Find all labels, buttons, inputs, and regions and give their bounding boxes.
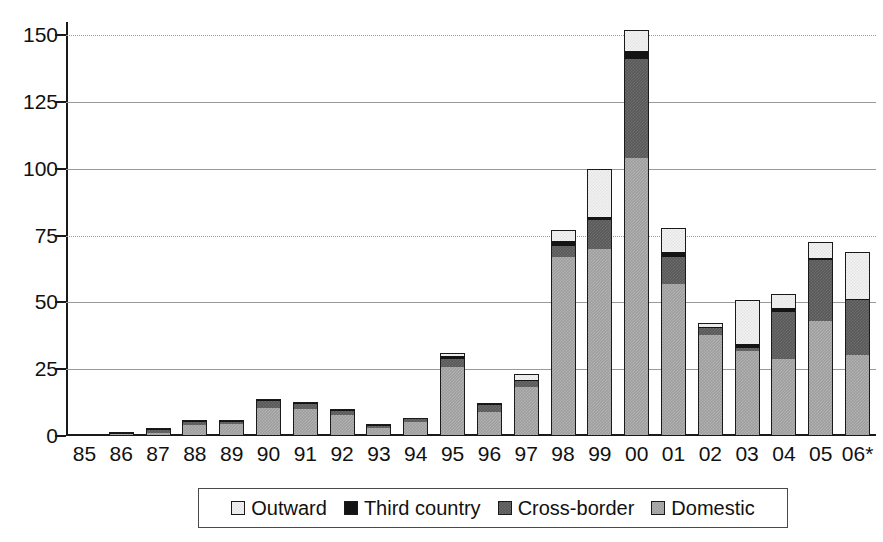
x-tick-label: 06*: [839, 441, 876, 467]
bar-segment-third-country: [109, 432, 134, 434]
bar-segment-third-country: [551, 241, 576, 246]
bar-column[interactable]: [735, 22, 760, 436]
bar-segment-outward: [219, 420, 244, 421]
x-tick-label: 85: [66, 441, 103, 467]
bar-segment-cross-border: [440, 359, 465, 368]
x-tick-label: 04: [766, 441, 803, 467]
x-tick-label: 96: [471, 441, 508, 467]
bar-column[interactable]: [477, 22, 502, 436]
bar-segment-domestic: [219, 424, 244, 436]
bar-segment-cross-border: [477, 405, 502, 412]
bar-segment-domestic: [845, 355, 870, 436]
chart-root: 0255075100125150 85868788899091929394959…: [0, 0, 883, 542]
bar-segment-third-country: [587, 217, 612, 220]
legend-swatch-icon: [498, 501, 512, 515]
legend-swatch-icon: [651, 501, 665, 515]
bar-segment-domestic: [403, 422, 428, 436]
bar-segment-third-country: [845, 299, 870, 300]
bar-segment-cross-border: [366, 426, 391, 428]
bar-segment-domestic: [146, 433, 171, 436]
bar-segment-outward: [808, 242, 833, 258]
legend-item-third-country[interactable]: Third country: [344, 498, 481, 518]
bar-segment-outward: [182, 420, 207, 421]
legend-item-cross-border[interactable]: Cross-border: [498, 498, 635, 518]
x-tick-label: 01: [655, 441, 692, 467]
legend-item-outward[interactable]: Outward: [231, 498, 327, 518]
bar-segment-cross-border: [514, 381, 539, 387]
bar-segment-outward: [403, 418, 428, 419]
bar-segment-third-country: [771, 308, 796, 312]
x-tick-label: 90: [250, 441, 287, 467]
y-axis-tick-125: [55, 101, 66, 103]
bar-column[interactable]: [403, 22, 428, 436]
bar-segment-domestic: [698, 335, 723, 436]
bar-segment-domestic: [109, 434, 134, 436]
x-tick-label: 89: [213, 441, 250, 467]
bar-column[interactable]: [366, 22, 391, 436]
x-axis-tick-labels: 8586878889909192939495969798990001020304…: [66, 441, 876, 475]
bar-column[interactable]: [771, 22, 796, 436]
bar-segment-cross-border: [587, 220, 612, 249]
bar-column[interactable]: [146, 22, 171, 436]
bar-segment-cross-border: [72, 434, 97, 435]
bar-segment-third-country: [440, 356, 465, 358]
bar-segment-cross-border: [403, 419, 428, 422]
y-tick-label: 100: [23, 158, 58, 179]
bar-series-group: [66, 22, 876, 436]
legend-label: Domestic: [671, 498, 754, 518]
bar-segment-domestic: [661, 284, 686, 436]
bar-column[interactable]: [72, 22, 97, 436]
bar-segment-third-country: [293, 403, 318, 404]
bar-segment-outward: [845, 252, 870, 299]
bar-column[interactable]: [109, 22, 134, 436]
plot-area: [66, 22, 876, 436]
bar-segment-outward: [330, 409, 355, 410]
bar-segment-third-country: [698, 327, 723, 328]
bar-column[interactable]: [661, 22, 686, 436]
bar-column[interactable]: [808, 22, 833, 436]
bar-segment-outward: [698, 323, 723, 327]
y-axis-tick-150: [55, 34, 66, 36]
y-tick-label: 150: [23, 24, 58, 45]
legend-swatch-icon: [231, 501, 245, 515]
y-axis-tick-0: [55, 435, 66, 437]
bar-column[interactable]: [587, 22, 612, 436]
bar-segment-third-country: [735, 344, 760, 348]
y-tick-label: 125: [23, 91, 58, 112]
bar-column[interactable]: [551, 22, 576, 436]
bar-column[interactable]: [440, 22, 465, 436]
bar-column[interactable]: [698, 22, 723, 436]
bar-segment-cross-border: [624, 59, 649, 158]
x-tick-label: 88: [176, 441, 213, 467]
bar-column[interactable]: [624, 22, 649, 436]
bar-segment-domestic: [256, 408, 281, 436]
bar-column[interactable]: [293, 22, 318, 436]
legend-label: Outward: [251, 498, 327, 518]
bar-segment-cross-border: [661, 257, 686, 284]
bar-segment-cross-border: [735, 348, 760, 351]
x-tick-label: 00: [618, 441, 655, 467]
bar-segment-outward: [514, 374, 539, 380]
bar-segment-domestic: [440, 367, 465, 436]
bar-segment-cross-border: [219, 422, 244, 424]
bar-segment-domestic: [587, 249, 612, 436]
bar-column[interactable]: [514, 22, 539, 436]
bar-segment-cross-border: [256, 401, 281, 408]
bar-segment-domestic: [771, 359, 796, 436]
bar-segment-outward: [551, 230, 576, 241]
bar-segment-outward: [735, 300, 760, 344]
bar-column[interactable]: [219, 22, 244, 436]
legend-item-domestic[interactable]: Domestic: [651, 498, 754, 518]
x-tick-label: 93: [361, 441, 398, 467]
bar-segment-domestic: [551, 257, 576, 436]
bar-segment-cross-border: [330, 411, 355, 415]
bar-column[interactable]: [182, 22, 207, 436]
x-tick-label: 87: [140, 441, 177, 467]
bar-segment-domestic: [72, 435, 97, 436]
bar-column[interactable]: [256, 22, 281, 436]
x-tick-label: 94: [397, 441, 434, 467]
bar-column[interactable]: [845, 22, 870, 436]
bar-segment-domestic: [366, 428, 391, 436]
bar-segment-outward: [256, 399, 281, 400]
bar-column[interactable]: [330, 22, 355, 436]
